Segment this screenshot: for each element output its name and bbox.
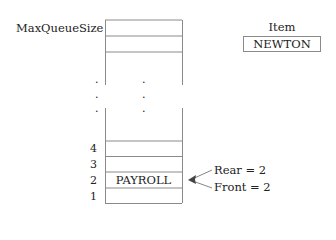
slot-index-2: 2	[90, 175, 97, 186]
slot-value-2: PAYROLL	[105, 175, 182, 187]
max-queue-size-label: MaxQueueSize	[16, 23, 103, 35]
dot: .	[95, 89, 99, 100]
rear-pointer-label: Rear = 2	[214, 165, 266, 177]
dot: .	[95, 74, 99, 85]
dot: .	[142, 89, 146, 100]
front-pointer-label: Front = 2	[214, 182, 271, 194]
slot-index-1: 1	[90, 191, 97, 202]
item-value: NEWTON	[243, 39, 321, 51]
slot-index-4: 4	[90, 143, 97, 154]
slot-index-3: 3	[90, 159, 97, 170]
dot: .	[142, 103, 146, 114]
dot: .	[95, 103, 99, 114]
dot: .	[142, 74, 146, 85]
item-label: Item	[243, 22, 321, 34]
